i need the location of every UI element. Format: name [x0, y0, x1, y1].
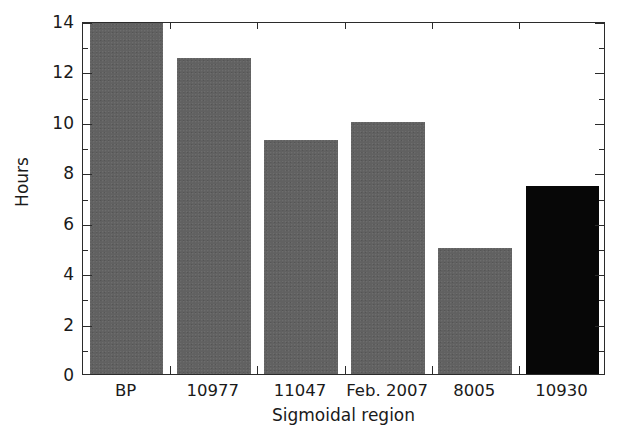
x-axis-category-labels: BP1097711047Feb. 2007800510930	[82, 381, 605, 403]
x-tick-label: 10977	[169, 381, 256, 400]
y-tick-label: 0	[38, 365, 74, 385]
x-tick-label: 8005	[431, 381, 518, 400]
y-tick-label: 6	[38, 214, 74, 234]
x-tick-label: Feb. 2007	[344, 381, 431, 400]
x-tick-label: 10930	[518, 381, 605, 400]
bar-chart-figure: 02468101214 Hours Sigmoidal region BP109…	[0, 0, 626, 448]
y-tick-label: 12	[38, 62, 74, 82]
y-tick-label: 8	[38, 163, 74, 183]
y-tick-label: 2	[38, 315, 74, 335]
y-tick-label: 10	[38, 113, 74, 133]
x-tick-label: BP	[82, 381, 169, 400]
x-tick-label: 11047	[256, 381, 343, 400]
x-axis-title: Sigmoidal region	[82, 405, 605, 425]
y-axis-title: Hours	[12, 112, 32, 252]
y-tick-label: 14	[38, 12, 74, 32]
y-tick-label: 4	[38, 264, 74, 284]
